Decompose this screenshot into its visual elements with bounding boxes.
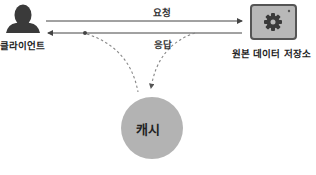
dashed-to-cache [87,34,138,92]
response-label: 응답 [154,37,172,51]
client-label: 클라이언트 [0,38,45,52]
origin-label: 원본 데이터 저장소 [232,46,311,60]
request-label: 요청 [153,5,171,19]
gear-icon [264,13,282,31]
person-icon [6,5,40,34]
response-junction-dot [83,31,87,35]
diagram-canvas [0,0,316,175]
cache-label: 캐시 [136,119,160,138]
